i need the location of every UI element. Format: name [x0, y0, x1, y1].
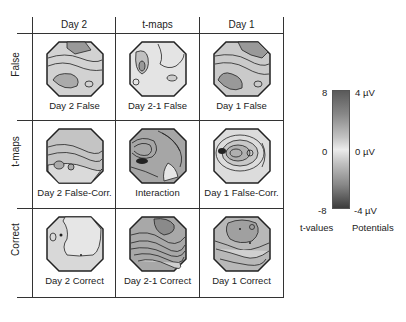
colorbar-p-bottom: -4 µV — [354, 205, 377, 216]
colorbar-t-bottom: -8 — [318, 205, 326, 216]
topomap-head-icon — [212, 127, 272, 185]
column-header-day1: Day 1 — [200, 18, 283, 32]
topomap-day2-correct: Day 2 Correct — [33, 209, 116, 296]
topomap-caption: Interaction — [116, 187, 199, 198]
topomap-caption: Day 1 Correct — [200, 275, 283, 286]
column-header-tmaps: t-maps — [116, 18, 199, 32]
colorbar-t-label: t-values — [300, 222, 333, 233]
colorbar-p-label: Potentials — [352, 222, 394, 233]
topomap-caption: Day 2 False-Corr. — [33, 187, 116, 198]
topomap-head-icon — [212, 215, 272, 273]
colorbar — [332, 90, 350, 209]
topomap-caption: Day 2-1 Correct — [116, 275, 199, 286]
topomap-caption: Day 2 False — [33, 100, 116, 111]
row-header-false: False — [4, 34, 26, 94]
topomap-head-icon — [128, 215, 188, 273]
topomap-day1-false-corr: Day 1 False-Corr. — [200, 121, 283, 208]
grid-line — [17, 297, 284, 298]
topomap-caption: Day 2-1 False — [116, 100, 199, 111]
colorbar-p-top: 4 µV — [355, 87, 375, 98]
topomap-day2-false-corr: Day 2 False-Corr. — [33, 121, 116, 208]
topomap-day21-false: Day 2-1 False — [116, 34, 199, 121]
colorbar-t-top: 8 — [322, 87, 327, 98]
grid-line — [283, 17, 284, 298]
topomap-interaction: Interaction — [116, 121, 199, 208]
topomap-caption: Day 2 Correct — [33, 275, 116, 286]
colorbar-p-mid: 0 µV — [355, 146, 375, 157]
topomap-head-icon — [212, 40, 272, 98]
column-header-day2: Day 2 — [33, 18, 115, 32]
colorbar-t-mid: 0 — [322, 146, 327, 157]
row-header-tmaps: t-maps — [4, 121, 26, 181]
topomap-day1-correct: Day 1 Correct — [200, 209, 283, 296]
topomap-day21-correct: Day 2-1 Correct — [116, 209, 199, 296]
topomap-head-icon — [45, 127, 105, 185]
topomap-head-icon — [45, 215, 105, 273]
topomap-head-icon — [128, 40, 188, 98]
row-header-correct: Correct — [4, 209, 26, 269]
topomap-head-icon — [128, 127, 188, 185]
topomap-day1-false: Day 1 False — [200, 34, 283, 121]
topomap-caption: Day 1 False-Corr. — [200, 187, 283, 198]
topomap-day2-false: Day 2 False — [33, 34, 116, 121]
topomap-caption: Day 1 False — [200, 100, 283, 111]
topomap-head-icon — [45, 40, 105, 98]
